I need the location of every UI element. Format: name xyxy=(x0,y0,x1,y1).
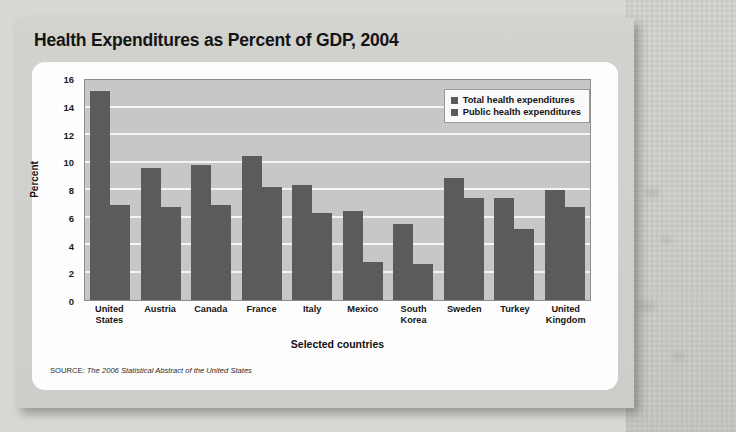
source-label: SOURCE: xyxy=(50,366,85,375)
bar-group xyxy=(186,80,237,300)
bar xyxy=(363,262,383,301)
bar xyxy=(211,205,231,300)
x-axis-tick-label: UnitedKingdom xyxy=(540,304,591,326)
bar xyxy=(161,207,181,301)
chart-legend: Total health expendituresPublic health e… xyxy=(444,89,590,123)
bar xyxy=(110,205,130,300)
bar-group xyxy=(388,80,439,300)
bar xyxy=(444,178,464,300)
x-axis-tick-label: Austria xyxy=(135,304,186,326)
bar xyxy=(514,229,534,301)
page-margin-texture xyxy=(626,0,736,432)
bar xyxy=(242,156,262,300)
bar xyxy=(262,187,282,300)
bar xyxy=(464,198,484,300)
bar-group xyxy=(85,80,136,300)
bar xyxy=(312,213,332,300)
x-axis-title: Selected countries xyxy=(84,338,591,350)
legend-item: Public health expenditures xyxy=(451,106,581,118)
x-axis-tick-label: Turkey xyxy=(490,304,541,326)
chart-panel: Percent 1614121086420 UnitedStatesAustri… xyxy=(32,62,618,390)
legend-swatch-icon xyxy=(451,109,458,116)
source-note: SOURCE: The 2006 Statistical Abstract of… xyxy=(50,366,252,375)
chart-title: Health Expenditures as Percent of GDP, 2… xyxy=(34,30,399,51)
bar xyxy=(545,190,565,300)
y-axis-ticks: 1614121086420 xyxy=(32,79,78,301)
bar xyxy=(565,207,585,301)
bar-group xyxy=(287,80,338,300)
chart-card: Health Expenditures as Percent of GDP, 2… xyxy=(16,18,634,408)
x-axis-tick-label: Sweden xyxy=(439,304,490,326)
y-axis-tick-label: 8 xyxy=(69,185,74,196)
y-axis-tick-label: 6 xyxy=(69,212,74,223)
y-axis-tick-label: 14 xyxy=(63,101,74,112)
bar-group xyxy=(338,80,389,300)
x-axis-tick-label: SouthKorea xyxy=(388,304,439,326)
y-axis-tick-label: 10 xyxy=(63,157,74,168)
bar xyxy=(343,211,363,300)
bar xyxy=(90,91,110,300)
y-axis-tick-label: 2 xyxy=(69,268,74,279)
legend-swatch-icon xyxy=(451,97,458,104)
bar xyxy=(494,198,514,300)
legend-item: Total health expenditures xyxy=(451,94,581,106)
bar xyxy=(141,168,161,300)
bar-group xyxy=(136,80,187,300)
y-axis-tick-label: 0 xyxy=(69,296,74,307)
legend-label: Total health expenditures xyxy=(463,94,575,106)
bar xyxy=(413,264,433,300)
y-axis-tick-label: 16 xyxy=(63,74,74,85)
y-axis-tick-label: 12 xyxy=(63,129,74,140)
x-axis-tick-label: UnitedStates xyxy=(84,304,135,326)
legend-label: Public health expenditures xyxy=(463,106,581,118)
x-axis-tick-label: Canada xyxy=(185,304,236,326)
bar xyxy=(191,165,211,300)
y-axis-tick-label: 4 xyxy=(69,240,74,251)
x-axis-tick-label: Italy xyxy=(287,304,338,326)
source-text: The 2006 Statistical Abstract of the Uni… xyxy=(87,366,252,375)
x-axis-tick-label: France xyxy=(236,304,287,326)
bar-group xyxy=(237,80,288,300)
bar xyxy=(292,185,312,301)
bar xyxy=(393,224,413,300)
x-axis-tick-labels: UnitedStatesAustriaCanadaFranceItalyMexi… xyxy=(84,304,591,326)
x-axis-tick-label: Mexico xyxy=(338,304,389,326)
